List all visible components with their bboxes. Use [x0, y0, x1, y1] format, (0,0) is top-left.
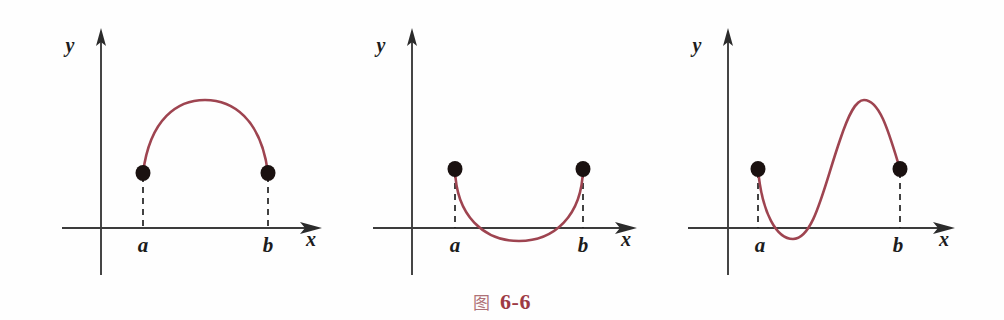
- figure-mark-glyph: 图: [473, 295, 490, 312]
- chart-panel-2: y x a b: [340, 0, 670, 285]
- endpoint-dot-a: [751, 161, 766, 177]
- tick-label-a: a: [450, 233, 461, 257]
- figure-root: y x a b y x a b: [0, 0, 1004, 320]
- endpoint-dot-a: [448, 161, 463, 177]
- panel-3-canvas: y x a b: [660, 0, 1004, 285]
- x-axis-label: x: [938, 228, 949, 250]
- x-axis-label: x: [620, 228, 631, 250]
- x-axis-label: x: [305, 228, 316, 250]
- endpoint-dot-b: [261, 165, 276, 181]
- figure-number: 6-6: [500, 289, 531, 315]
- endpoint-dot-b: [576, 161, 591, 177]
- function-curve: [758, 100, 900, 239]
- y-axis-label: y: [691, 34, 702, 57]
- chart-panel-3: y x a b: [660, 0, 1004, 285]
- chart-panel-1: y x a b: [0, 0, 340, 285]
- endpoint-dot-a: [136, 165, 151, 181]
- panel-1-canvas: y x a b: [0, 0, 340, 285]
- tick-label-a: a: [138, 233, 149, 257]
- figure-caption: 图 6-6: [0, 284, 1004, 320]
- function-curve: [143, 100, 268, 173]
- tick-label-b: b: [578, 233, 589, 257]
- panel-2-canvas: y x a b: [340, 0, 670, 285]
- tick-label-b: b: [263, 233, 274, 257]
- endpoint-dot-b: [893, 161, 908, 177]
- y-axis-label: y: [375, 34, 386, 57]
- function-curve: [455, 169, 583, 241]
- tick-label-a: a: [755, 233, 766, 257]
- y-axis-label: y: [64, 34, 75, 57]
- tick-label-b: b: [893, 233, 904, 257]
